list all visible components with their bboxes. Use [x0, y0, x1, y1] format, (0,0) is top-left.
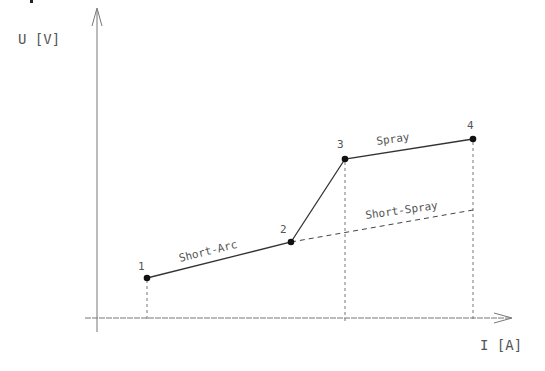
segment-label-spray: Spray	[376, 130, 411, 148]
x-axis	[85, 313, 512, 323]
point-3	[342, 156, 349, 163]
point-4	[470, 136, 477, 143]
point-label-4: 4	[467, 119, 474, 132]
y-axis	[92, 8, 102, 332]
segment-label-short-arc: Short-Arc	[178, 238, 239, 265]
x-axis-label: I [A]	[480, 337, 522, 353]
corner-mark	[30, 0, 33, 3]
point-2	[288, 239, 295, 246]
y-axis-label: U [V]	[18, 31, 60, 47]
point-label-3: 3	[337, 138, 344, 151]
point-label-1: 1	[138, 260, 145, 273]
segment-label-short-spray: Short-Spray	[365, 199, 439, 222]
point-1	[144, 275, 151, 282]
drop-lines	[147, 142, 473, 322]
point-label-2: 2	[280, 223, 287, 236]
welding-characteristic-diagram: U [V] I [A] 1 2 3 4 Short-Arc Spray Shor…	[0, 0, 545, 371]
